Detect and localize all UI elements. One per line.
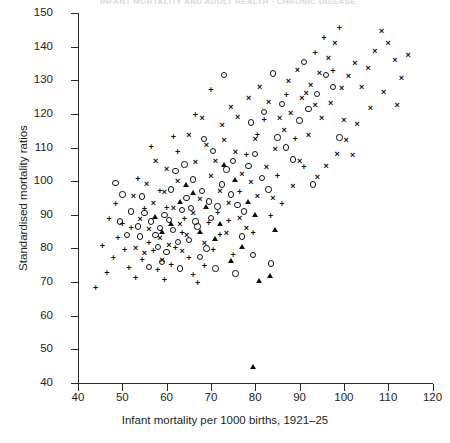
data-point-plus: + — [139, 257, 146, 264]
data-point-circle — [274, 134, 280, 140]
data-point-cross: × — [385, 40, 392, 47]
data-point-triangle — [228, 258, 234, 263]
data-point-circle — [245, 163, 251, 169]
data-point-cross: × — [398, 75, 405, 82]
data-point-cross: × — [332, 40, 339, 47]
data-point-circle — [239, 233, 245, 239]
data-point-cross: × — [289, 183, 296, 190]
data-point-plus: + — [181, 216, 188, 223]
data-point-cross: × — [150, 200, 157, 207]
data-point-triangle — [252, 212, 258, 217]
data-point-plus: + — [250, 230, 257, 237]
data-point-cross: × — [219, 122, 226, 129]
data-point-plus: + — [121, 247, 128, 254]
data-point-circle — [301, 59, 307, 65]
data-point-cross: × — [130, 193, 137, 200]
data-point-cross: × — [236, 215, 243, 222]
data-point-plus: + — [103, 270, 110, 277]
data-point-circle — [248, 119, 254, 125]
data-point-plus: + — [134, 176, 141, 183]
data-point-cross: × — [327, 100, 334, 107]
data-point-cross: × — [132, 245, 139, 252]
data-point-circle — [310, 181, 316, 187]
data-point-cross: × — [156, 235, 163, 242]
data-point-plus: + — [174, 149, 181, 156]
data-point-plus: + — [148, 144, 155, 151]
data-point-cross: × — [143, 181, 150, 188]
data-point-plus: + — [329, 68, 336, 75]
data-point-plus: + — [125, 265, 132, 272]
data-point-cross: × — [349, 152, 356, 159]
data-point-plus: + — [254, 132, 261, 139]
data-point-circle — [252, 151, 258, 157]
data-point-plus: + — [312, 50, 319, 57]
data-point-triangle — [245, 199, 251, 204]
data-point-plus: + — [99, 243, 106, 250]
data-point-cross: × — [343, 137, 350, 144]
scatter-plot-figure: INFANT MORTALITY AND ADULT HEALTH · CHRO… — [0, 0, 450, 443]
data-point-circle — [146, 264, 152, 270]
data-point-circle — [330, 84, 336, 90]
data-point-triangle — [250, 364, 256, 369]
data-point-cross: × — [227, 104, 234, 111]
data-point-circle — [177, 265, 183, 271]
data-point-cross: × — [232, 149, 239, 156]
data-point-triangle — [221, 162, 227, 167]
data-point-plus: + — [179, 230, 186, 237]
data-point-plus: + — [172, 245, 179, 252]
data-point-plus: + — [156, 188, 163, 195]
data-point-cross: × — [365, 65, 372, 72]
data-point-plus: + — [243, 152, 250, 159]
data-point-plus: + — [163, 205, 170, 212]
data-point-circle — [119, 191, 125, 197]
data-point-cross: × — [371, 48, 378, 55]
data-point-plus: + — [112, 201, 119, 208]
data-point-cross: × — [303, 90, 310, 97]
data-point-cross: × — [276, 115, 283, 122]
data-point-cross: × — [338, 85, 345, 92]
data-point-circle — [124, 232, 130, 238]
data-point-circle — [168, 186, 174, 192]
data-point-cross: × — [351, 60, 358, 67]
data-point-cross: × — [405, 52, 412, 59]
data-point-circle — [232, 270, 238, 276]
data-point-cross: × — [312, 102, 319, 109]
data-point-triangle — [168, 221, 174, 226]
data-point-plus: + — [283, 92, 290, 99]
data-point-circle — [230, 158, 236, 164]
data-point-cross: × — [221, 137, 228, 144]
data-point-circle — [234, 202, 240, 208]
data-point-cross: × — [137, 216, 144, 223]
data-point-circle — [265, 186, 271, 192]
data-point-plus: + — [168, 262, 175, 269]
data-point-cross: × — [238, 171, 245, 178]
data-point-cross: × — [256, 84, 263, 91]
data-point-triangle — [267, 273, 273, 278]
data-point-plus: + — [214, 210, 221, 217]
data-point-triangle — [152, 214, 158, 219]
data-point-cross: × — [203, 142, 210, 149]
data-point-circle — [283, 144, 289, 150]
data-point-circle — [270, 70, 276, 76]
data-point-plus: + — [106, 216, 113, 223]
data-point-circle — [172, 168, 178, 174]
data-point-plus: + — [150, 248, 157, 255]
data-point-cross: × — [223, 230, 230, 237]
data-point-plus: + — [267, 213, 274, 220]
data-point-cross: × — [265, 99, 272, 106]
data-point-cross: × — [145, 226, 152, 233]
data-point-triangle — [190, 190, 196, 195]
data-point-triangle — [159, 229, 165, 234]
data-point-cross: × — [272, 146, 279, 153]
data-point-triangle — [197, 229, 203, 234]
data-point-plus: + — [119, 221, 126, 228]
data-point-triangle — [217, 221, 223, 226]
data-point-circle — [259, 175, 265, 181]
data-point-cross: × — [287, 110, 294, 117]
data-point-cross: × — [281, 127, 288, 134]
data-point-cross: × — [391, 57, 398, 64]
data-point-cross: × — [196, 196, 203, 203]
data-point-circle — [314, 91, 320, 97]
data-point-cross: × — [354, 121, 361, 128]
data-point-plus: + — [274, 173, 281, 180]
